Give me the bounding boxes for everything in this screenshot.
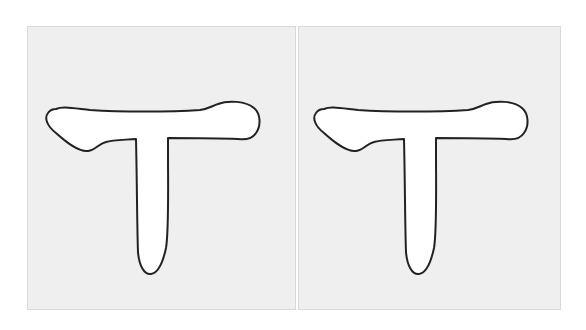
- glyph-panel-left: T: [27, 26, 296, 310]
- glyph-panel-right: T: [298, 26, 561, 310]
